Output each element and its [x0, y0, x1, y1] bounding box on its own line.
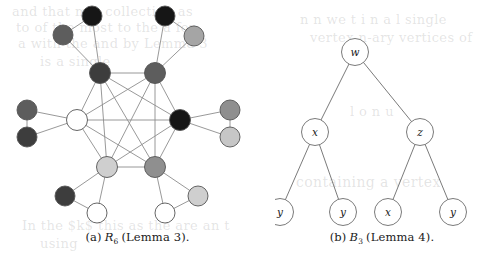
tree-node-label: y: [276, 206, 284, 218]
tree-node-label: y: [449, 206, 457, 218]
tree-node-rl: x: [375, 199, 402, 226]
figure-a-caption-suffix: (Lemma 3).: [121, 230, 189, 244]
graph-node-c3: [170, 110, 191, 131]
tree-node-root: w: [342, 39, 369, 66]
graph-node-c4: [145, 157, 166, 178]
figure-b-b3: wxzyyxy (b)B3(Lemma 4).: [275, 0, 489, 262]
graph-node-p5a: [55, 186, 75, 206]
figure-a-caption-prefix: (a): [85, 230, 101, 244]
graph-node-p6b: [17, 127, 37, 147]
figure-b-caption-suffix: (Lemma 4).: [366, 230, 434, 244]
tree-edge: [425, 144, 448, 199]
graph-node-p5b: [87, 203, 107, 223]
graph-node-p2b: [184, 26, 204, 46]
tree-edge: [393, 145, 415, 200]
tree-node-lr: y: [330, 199, 357, 226]
tree-edge: [364, 62, 412, 121]
graph-node-c5: [97, 157, 118, 178]
figure-page: and that my) collection asto of the most…: [0, 0, 489, 262]
figure-b-nodes: wxzyyxy: [275, 39, 467, 226]
graph-node-p4a: [188, 186, 208, 206]
graph-node-p3b: [220, 127, 240, 147]
graph-node-p2a: [155, 6, 175, 26]
graph-node-p4b: [155, 203, 175, 223]
figure-b-caption-subscript: 3: [358, 237, 363, 246]
tree-node-label: x: [385, 206, 391, 218]
graph-node-p1b: [53, 25, 73, 45]
figure-b-caption: (b)B3(Lemma 4).: [275, 230, 489, 246]
tree-node-label: z: [416, 126, 423, 138]
figure-a-caption-subscript: 6: [113, 237, 118, 246]
tree-edge: [319, 145, 338, 200]
tree-node-label: w: [351, 46, 360, 58]
tree-node-label: x: [312, 126, 318, 138]
graph-node-p3a: [220, 100, 240, 120]
figure-b-canvas: wxzyyxy: [275, 0, 489, 262]
graph-node-c2: [145, 63, 166, 84]
tree-node-label: y: [339, 206, 347, 218]
tree-edge: [285, 144, 309, 199]
graph-node-c6: [67, 110, 88, 131]
graph-node-p6a: [17, 100, 37, 120]
tree-edge: [321, 64, 349, 120]
tree-node-rr: y: [440, 199, 467, 226]
tree-node-ll: y: [275, 199, 294, 226]
tree-node-right: z: [407, 119, 434, 146]
figure-b-caption-prefix: (b): [330, 230, 347, 244]
graph-node-c1: [90, 63, 111, 84]
figure-a-edges: [27, 16, 230, 213]
figure-a-r6: (a)R6(Lemma 3).: [0, 0, 275, 262]
tree-node-left: x: [302, 119, 329, 146]
figure-a-canvas: [0, 0, 275, 262]
figure-a-caption: (a)R6(Lemma 3).: [0, 230, 275, 246]
figure-b-caption-symbol: B: [350, 230, 359, 244]
graph-node-p1a: [82, 6, 102, 26]
